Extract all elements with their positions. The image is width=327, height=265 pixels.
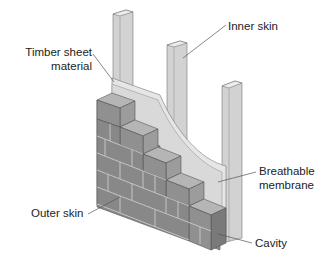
label-timber-sheet-line1: Timber sheet xyxy=(10,46,92,59)
wall-illustration xyxy=(0,0,327,265)
label-cavity: Cavity xyxy=(255,237,287,250)
label-timber-sheet-line2: material xyxy=(10,60,92,73)
label-outer-skin: Outer skin xyxy=(31,207,83,220)
wall-construction-diagram: Inner skin Timber sheet material Breatha… xyxy=(0,0,327,265)
label-breathable-line2: membrane xyxy=(259,179,314,192)
label-breathable-line1: Breathable xyxy=(259,165,315,178)
label-inner-skin: Inner skin xyxy=(228,20,278,33)
